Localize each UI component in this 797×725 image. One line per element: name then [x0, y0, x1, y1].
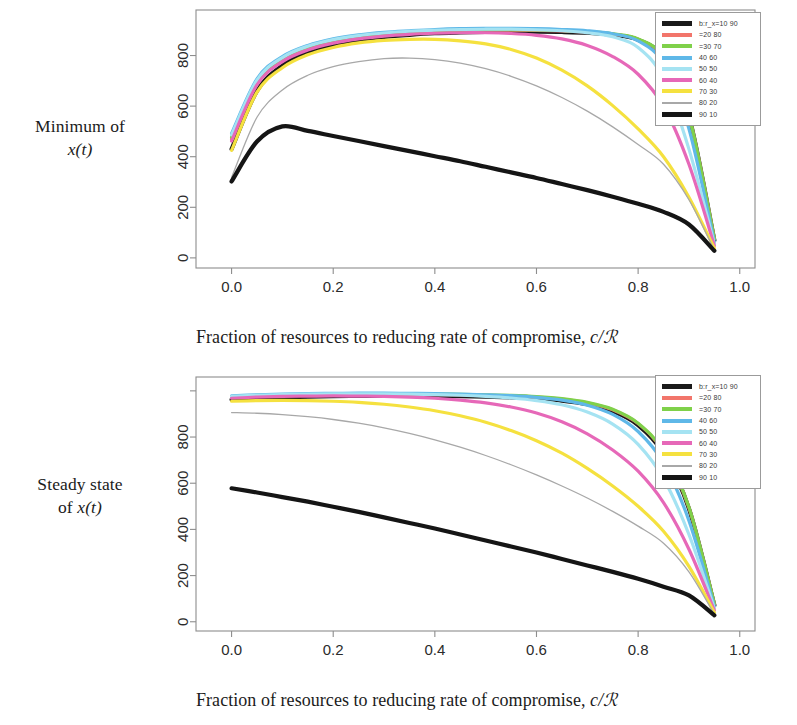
y-axis-tick-label: 800 [175, 425, 192, 450]
series-line [232, 488, 715, 615]
legend-swatch [662, 56, 692, 60]
legend-swatch [662, 384, 692, 389]
x-axis-tick-label: 0.2 [323, 641, 344, 658]
y-axis-tick-label: 600 [175, 471, 192, 496]
x-axis-title-top: Fraction of resources to reducing rate o… [196, 326, 617, 348]
x-axis-tick-label: 0.2 [323, 278, 344, 295]
legend-label: b:r_x=10 90 [699, 20, 738, 27]
y-axis-tick-label: 0 [175, 618, 192, 626]
y-axis-tick-label: 0 [175, 254, 192, 262]
y-axis-tick-label: 600 [175, 94, 192, 119]
legend-label: 60 40 [699, 77, 717, 84]
legend-label: 90 10 [699, 474, 717, 481]
legend-row: 50 50 [662, 63, 754, 74]
legend-row: 50 50 [662, 426, 754, 437]
legend-row: 70 30 [662, 449, 754, 460]
legend-row: 90 10 [662, 471, 754, 482]
legend-swatch [662, 430, 692, 434]
y-axis-tick-label: 800 [175, 43, 192, 68]
y-axis-tick-label: 400 [175, 517, 192, 542]
legend-swatch [662, 67, 692, 71]
panel-steady-state-of-x: Steady state of x(t) 02004006008000.00.2… [0, 363, 797, 725]
legend-label: 40 60 [699, 417, 717, 424]
x-axis-tick-label: 0.8 [628, 641, 649, 658]
series-line [232, 39, 715, 248]
legend-row: 60 40 [662, 74, 754, 85]
series-line [232, 28, 715, 242]
y-axis-tick-label: 200 [175, 195, 192, 220]
legend-swatch [662, 89, 692, 93]
series-line [232, 29, 715, 244]
x-axis-title-bottom-math: c/ℛ [590, 690, 617, 710]
legend-row: b:r_x=10 90 [662, 18, 754, 29]
series-line [232, 126, 715, 251]
legend-label: =20 80 [699, 31, 722, 38]
legend-label: =30 70 [699, 43, 722, 50]
x-axis-tick-label: 1.0 [729, 278, 750, 295]
legend-swatch [662, 33, 692, 37]
legend-label: =20 80 [699, 394, 722, 401]
legend-label: 60 40 [699, 440, 717, 447]
panel-minimum-of-x: Minimum of x(t) 02004006008000.00.20.40.… [0, 0, 797, 362]
legend-row: b:r_x=10 90 [662, 381, 754, 392]
legend-swatch [662, 419, 692, 423]
x-axis-tick-label: 0.8 [628, 278, 649, 295]
series-line [232, 413, 715, 615]
legend-label: 50 50 [699, 428, 717, 435]
x-axis-title-top-text: Fraction of resources to reducing rate o… [196, 327, 590, 347]
legend-row: 90 10 [662, 108, 754, 119]
legend-bottom: b:r_x=10 90=20 80=30 7040 6050 5060 4070… [655, 375, 761, 489]
legend-row: =20 80 [662, 392, 754, 403]
x-axis-tick-label: 0.6 [526, 278, 547, 295]
x-axis-title-bottom-text: Fraction of resources to reducing rate o… [196, 690, 590, 710]
legend-row: =30 70 [662, 404, 754, 415]
figure-root: Minimum of x(t) 02004006008000.00.20.40.… [0, 0, 797, 725]
legend-row: =20 80 [662, 29, 754, 40]
legend-swatch [662, 78, 692, 82]
x-axis-tick-label: 0.6 [526, 641, 547, 658]
legend-label: b:r_x=10 90 [699, 383, 738, 390]
x-axis-tick-label: 0.0 [221, 641, 242, 658]
legend-swatch [662, 102, 692, 104]
x-axis-tick-label: 0.4 [424, 641, 445, 658]
x-axis-tick-label: 1.0 [729, 641, 750, 658]
x-axis-tick-label: 0.4 [424, 278, 445, 295]
x-axis-title-bottom: Fraction of resources to reducing rate o… [196, 689, 617, 711]
series-line [232, 32, 715, 240]
legend-label: =30 70 [699, 406, 722, 413]
legend-label: 50 50 [699, 65, 717, 72]
legend-swatch [662, 396, 692, 400]
x-axis-tick-label: 0.0 [221, 278, 242, 295]
legend-row: 80 20 [662, 97, 754, 108]
series-line [232, 58, 715, 250]
series-line [232, 394, 715, 604]
legend-label: 70 30 [699, 88, 717, 95]
legend-row: 40 60 [662, 415, 754, 426]
legend-swatch [662, 441, 692, 445]
legend-swatch [662, 475, 692, 480]
legend-swatch [662, 112, 692, 117]
legend-row: =30 70 [662, 41, 754, 52]
legend-top: b:r_x=10 90=20 80=30 7040 6050 5060 4070… [655, 12, 761, 126]
series-line [232, 33, 715, 246]
legend-swatch [662, 452, 692, 456]
legend-row: 70 30 [662, 86, 754, 97]
legend-label: 40 60 [699, 54, 717, 61]
legend-label: 80 20 [699, 462, 717, 469]
legend-label: 90 10 [699, 111, 717, 118]
legend-swatch [662, 44, 692, 48]
y-axis-tick-label: 200 [175, 563, 192, 588]
legend-swatch [662, 407, 692, 411]
x-axis-title-top-math: c/ℛ [590, 327, 617, 347]
y-axis-tick-label: 400 [175, 144, 192, 169]
legend-swatch [662, 21, 692, 26]
legend-row: 40 60 [662, 52, 754, 63]
legend-row: 80 20 [662, 460, 754, 471]
legend-label: 80 20 [699, 99, 717, 106]
legend-label: 70 30 [699, 451, 717, 458]
legend-row: 60 40 [662, 437, 754, 448]
legend-swatch [662, 465, 692, 467]
